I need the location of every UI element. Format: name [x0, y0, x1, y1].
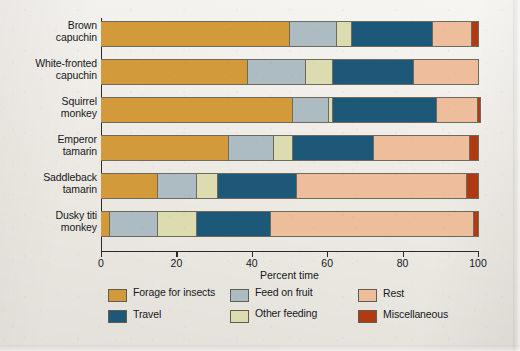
- bar-segment-forage_for_insects: [101, 212, 110, 236]
- bar-segment-rest: [271, 212, 475, 236]
- legend-label-forage_for_insects: Forage for insects: [133, 287, 215, 298]
- legend-label-rest: Rest: [383, 288, 404, 299]
- bar-segment-miscellaneous: [470, 136, 478, 160]
- bar-segment-rest: [437, 98, 478, 122]
- bar-row: [101, 21, 479, 47]
- bar-segment-miscellaneous: [472, 22, 478, 46]
- page-edge-bottom: [0, 345, 520, 351]
- x-axis-tick-label: 80: [397, 257, 409, 269]
- bar-segment-miscellaneous: [478, 98, 480, 122]
- x-axis-tick-label: 20: [171, 257, 183, 269]
- bar-segment-rest: [433, 22, 473, 46]
- bar-row: [101, 135, 479, 161]
- y-axis-category-labels: BrowncapuchinWhite-frontedcapuchinSquirr…: [0, 18, 97, 252]
- bar-segment-feed_on_fruit: [293, 98, 329, 122]
- x-axis-title: Percent time: [101, 269, 478, 281]
- x-axis-line: [101, 251, 479, 252]
- bar-row: [101, 59, 479, 85]
- bar-segment-travel: [293, 136, 374, 160]
- legend-item-miscellaneous: Miscellaneous: [358, 309, 498, 328]
- legend-swatch-travel: [108, 310, 127, 323]
- legend-swatch-miscellaneous: [358, 310, 377, 323]
- bar-row: [101, 173, 479, 199]
- bar-segment-forage_for_insects: [101, 98, 293, 122]
- bar-segment-forage_for_insects: [101, 174, 158, 198]
- legend-label-miscellaneous: Miscellaneous: [383, 309, 448, 320]
- plot-area: [101, 18, 478, 251]
- bar-segment-other_feeding: [274, 136, 293, 160]
- bar-segment-other_feeding: [337, 22, 352, 46]
- legend-swatch-feed_on_fruit: [230, 289, 249, 302]
- bar-segment-forage_for_insects: [101, 136, 229, 160]
- x-axis-tick-label: 100: [469, 257, 487, 269]
- bar-segment-miscellaneous: [467, 174, 478, 198]
- y-axis-label: Squirrelmonkey: [1, 96, 97, 119]
- legend-item-other_feeding: Other feeding: [230, 309, 358, 328]
- y-axis-label: Emperortamarin: [1, 134, 97, 157]
- bar-segment-travel: [352, 22, 433, 46]
- chart-legend: Forage for insectsFeed on fruitRestTrave…: [108, 288, 498, 328]
- legend-label-other_feeding: Other feeding: [255, 308, 317, 319]
- y-axis-label: Browncapuchin: [1, 20, 97, 43]
- bar-segment-rest: [297, 174, 467, 198]
- x-axis-tick-label: 40: [246, 257, 258, 269]
- legend-swatch-forage_for_insects: [108, 289, 127, 302]
- bar-segment-feed_on_fruit: [158, 174, 198, 198]
- stacked-bar-chart: BrowncapuchinWhite-frontedcapuchinSquirr…: [0, 0, 520, 351]
- bar-segment-miscellaneous: [474, 212, 478, 236]
- bar-segment-rest: [374, 136, 470, 160]
- legend-item-forage_for_insects: Forage for insects: [108, 288, 230, 309]
- bar-segment-other_feeding: [197, 174, 218, 198]
- bar-segment-travel: [333, 98, 437, 122]
- legend-label-feed_on_fruit: Feed on fruit: [255, 287, 313, 298]
- x-axis-tick-label: 0: [98, 257, 104, 269]
- legend-item-feed_on_fruit: Feed on fruit: [230, 288, 358, 309]
- legend-swatch-rest: [358, 289, 377, 302]
- bar-segment-forage_for_insects: [101, 22, 290, 46]
- bar-row: [101, 211, 479, 237]
- bar-segment-other_feeding: [306, 60, 332, 84]
- bar-segment-feed_on_fruit: [110, 212, 157, 236]
- y-axis-label: White-frontedcapuchin: [1, 58, 97, 81]
- legend-label-travel: Travel: [133, 309, 161, 320]
- legend-item-travel: Travel: [108, 309, 230, 328]
- y-axis-label: Saddlebacktamarin: [1, 172, 97, 195]
- x-axis-tick-label: 60: [321, 257, 333, 269]
- bar-row: [101, 97, 481, 123]
- bar-segment-feed_on_fruit: [248, 60, 306, 84]
- bar-segment-other_feeding: [158, 212, 198, 236]
- bar-segment-feed_on_fruit: [229, 136, 274, 160]
- bar-segment-travel: [218, 174, 297, 198]
- bar-segment-travel: [197, 212, 271, 236]
- bar-segment-forage_for_insects: [101, 60, 248, 84]
- legend-item-rest: Rest: [358, 288, 498, 309]
- bar-segment-feed_on_fruit: [290, 22, 337, 46]
- page-edge-right: [513, 0, 520, 351]
- bar-segment-rest: [414, 60, 478, 84]
- bar-segment-travel: [333, 60, 414, 84]
- y-axis-label: Dusky titimonkey: [1, 210, 97, 233]
- legend-swatch-other_feeding: [230, 310, 249, 323]
